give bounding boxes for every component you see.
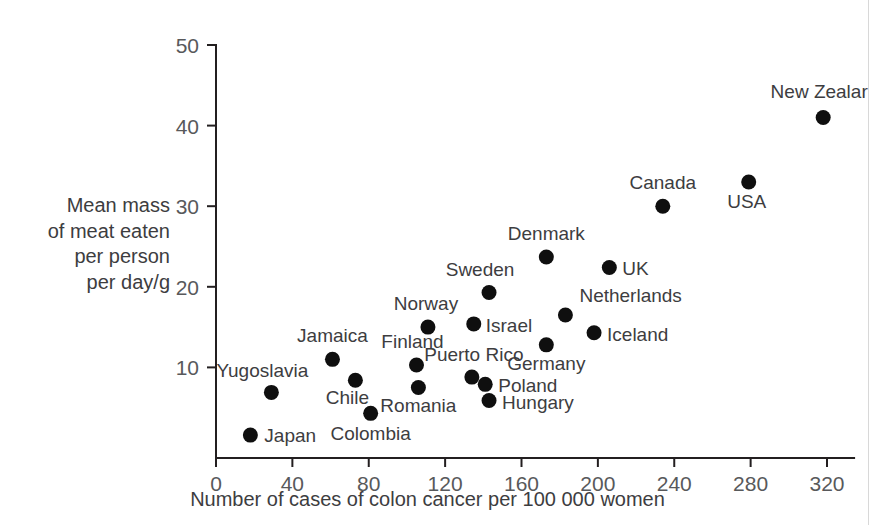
data-point-marker — [409, 357, 424, 372]
data-point-label: Chile — [326, 387, 369, 408]
data-point-marker — [587, 325, 602, 340]
y-axis-title: Mean massof meat eatenper personper day/… — [20, 193, 170, 295]
data-point-label: Netherlands — [579, 285, 681, 306]
data-point-marker — [482, 285, 497, 300]
y-tick-label: 10 — [176, 356, 199, 379]
data-point-marker — [420, 320, 435, 335]
data-point-label: Jamaica — [297, 325, 368, 346]
x-axis-title: Number of cases of colon cancer per 100 … — [0, 487, 855, 513]
y-tick-label: 20 — [176, 276, 199, 299]
data-point-marker — [539, 249, 554, 264]
data-point-label: Romania — [380, 395, 456, 416]
data-point: Hungary — [482, 392, 575, 413]
data-point-marker — [243, 428, 258, 443]
y-tick-label: 40 — [176, 115, 199, 138]
data-point-marker — [325, 352, 340, 367]
data-point-marker — [482, 393, 497, 408]
y-tick-label: 50 — [176, 34, 199, 57]
y-axis-title-line: of meat eaten — [20, 219, 170, 245]
data-point-label: Yugoslavia — [216, 360, 308, 381]
data-point-marker — [655, 199, 670, 214]
data-point-label: Norway — [394, 293, 459, 314]
data-point-marker — [478, 377, 493, 392]
data-point-marker — [741, 175, 756, 190]
y-axis-title-line: per person — [20, 244, 170, 270]
y-axis-title-line: Mean mass — [20, 193, 170, 219]
data-point-label: Denmark — [508, 223, 586, 244]
data-point-label: Japan — [264, 425, 316, 446]
data-point-marker — [464, 370, 479, 385]
data-point: Norway — [394, 293, 459, 335]
data-point-marker — [348, 373, 363, 388]
data-point: Canada — [630, 172, 697, 214]
data-point-marker — [539, 337, 554, 352]
data-point-marker — [411, 380, 426, 395]
y-tick-label: 30 — [176, 195, 199, 218]
data-point-label: Canada — [630, 172, 697, 193]
data-point: Yugoslavia — [216, 360, 308, 400]
data-point-marker — [466, 316, 481, 331]
data-point-label: Iceland — [607, 324, 668, 345]
data-point: Iceland — [587, 324, 669, 345]
data-point: Denmark — [508, 223, 586, 265]
data-point: New Zealar — [771, 81, 869, 126]
data-point-label: Sweden — [446, 259, 515, 280]
data-point-marker — [363, 406, 378, 421]
data-point-marker — [264, 385, 279, 400]
data-point-label: Hungary — [502, 392, 574, 413]
data-point: Netherlands — [558, 285, 682, 323]
data-point-marker — [816, 110, 831, 125]
data-point: Israel — [466, 315, 532, 336]
data-point-label: Colombia — [331, 423, 412, 444]
data-point-marker — [558, 308, 573, 323]
data-point-label: Israel — [486, 315, 532, 336]
data-point-marker — [602, 260, 617, 275]
data-point: USA — [727, 175, 766, 213]
data-point-label: USA — [727, 191, 766, 212]
data-point: UK — [602, 258, 649, 279]
data-point: Romania — [380, 380, 456, 416]
data-point-label: New Zealar — [771, 81, 869, 102]
data-point: Germany — [507, 337, 586, 374]
scatter-plot-figure: 102030405004080120160200240280320JapanYu… — [0, 0, 895, 525]
data-point-label: Germany — [507, 353, 586, 374]
data-point: Chile — [326, 373, 369, 409]
data-point-label: UK — [622, 258, 649, 279]
data-point: Japan — [243, 425, 316, 446]
y-axis-title-line: per day/g — [20, 270, 170, 296]
